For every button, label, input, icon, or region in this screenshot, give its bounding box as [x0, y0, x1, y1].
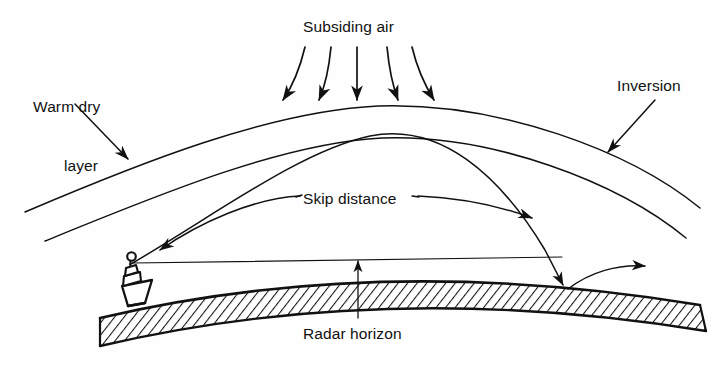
subsiding-air-arrows: [283, 47, 434, 100]
label-radar-horizon: Radar horizon: [303, 324, 402, 344]
radar-ducting-figure: Subsiding air Warm dry layer Inversion S…: [0, 0, 726, 369]
label-warm-dry-layer: Warm dry layer: [33, 57, 129, 216]
reflected-ray: [568, 266, 645, 289]
label-warm-dry-layer-line2: layer: [33, 156, 129, 176]
line-of-sight: [133, 257, 562, 263]
radar-antenna-icon: [127, 252, 136, 261]
label-warm-dry-layer-line1: Warm dry: [33, 97, 129, 117]
label-subsiding-air: Subsiding air: [303, 17, 394, 37]
label-skip-distance: Skip distance: [303, 189, 397, 209]
leader-inversion: [608, 100, 655, 152]
leader-skip-left: [160, 196, 300, 250]
earth-surface: [100, 281, 706, 346]
label-inversion: Inversion: [617, 76, 681, 96]
